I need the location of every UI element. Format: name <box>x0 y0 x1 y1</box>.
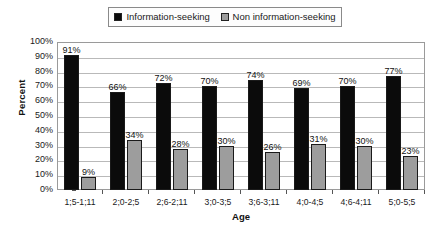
x-axis-title: Age <box>57 211 425 222</box>
x-axis-tick-mark <box>57 190 103 196</box>
bar-information-seeking: 74% <box>248 80 263 190</box>
bar-group: 91%9% <box>57 42 103 190</box>
x-axis-tick-mark <box>241 190 287 196</box>
bar-group: 74%26% <box>241 42 287 190</box>
bar-non-information-seeking: 26% <box>265 152 280 190</box>
bar-value-label: 34% <box>125 131 143 140</box>
bar-value-label: 77% <box>384 67 402 76</box>
x-axis-tick-label: 4;0-4;5 <box>287 197 333 207</box>
bar-non-information-seeking: 30% <box>357 146 372 190</box>
y-axis-tick-label: 70% <box>21 81 53 90</box>
bar-information-seeking: 69% <box>294 88 309 190</box>
bar-information-seeking: 70% <box>202 86 217 190</box>
bar-value-label: 91% <box>62 46 80 55</box>
y-axis-tick-label: 40% <box>21 126 53 135</box>
x-axis-tick-label: 2;0-2;5 <box>103 197 149 207</box>
bar-information-seeking: 70% <box>340 86 355 190</box>
x-axis-tick-label: 1;5-1;11 <box>57 197 103 207</box>
x-axis-tick-mark <box>195 190 241 196</box>
legend-entry-information-seeking: Information-seeking <box>114 12 209 22</box>
y-axis-tick-label: 80% <box>21 67 53 76</box>
x-axis-tick-label: 5;0-5;5 <box>379 197 425 207</box>
legend-label-information-seeking: Information-seeking <box>126 12 209 22</box>
y-axis-tick-label: 30% <box>21 141 53 150</box>
bar-non-information-seeking: 31% <box>311 144 326 190</box>
bar-value-label: 28% <box>171 140 189 149</box>
bar-group: 66%34% <box>103 42 149 190</box>
bar-information-seeking: 77% <box>386 76 401 190</box>
bar-group: 72%28% <box>149 42 195 190</box>
y-axis-tick-label: 0% <box>21 185 53 194</box>
bar-information-seeking: 72% <box>156 83 171 190</box>
y-axis-tick-label: 10% <box>21 170 53 179</box>
y-axis-tick-label: 100% <box>21 37 53 46</box>
x-axis-tick-mark <box>287 190 333 196</box>
x-axis-tick-label: 2;6-2;11 <box>149 197 195 207</box>
legend-swatch-non-information-seeking <box>221 13 229 21</box>
x-axis-tick-label: 3;6-3;11 <box>241 197 287 207</box>
legend-entry-non-information-seeking: Non information-seeking <box>221 12 336 22</box>
bar-group: 70%30% <box>195 42 241 190</box>
bar-non-information-seeking: 30% <box>219 146 234 190</box>
y-axis-tick-label: 60% <box>21 96 53 105</box>
bar-non-information-seeking: 28% <box>173 149 188 190</box>
x-axis-tick-mark <box>149 190 195 196</box>
bar-groups: 91%9%66%34%72%28%70%30%74%26%69%31%70%30… <box>57 42 425 190</box>
y-axis-tick-label: 50% <box>21 111 53 120</box>
x-axis-tick-mark <box>103 190 149 196</box>
bar-chart: Information-seeking Non information-seek… <box>0 0 433 241</box>
bar-non-information-seeking: 9% <box>81 177 96 190</box>
bar-value-label: 66% <box>108 83 126 92</box>
legend-swatch-information-seeking <box>114 13 122 21</box>
bar-value-label: 72% <box>154 74 172 83</box>
x-axis-tick-mark <box>333 190 379 196</box>
x-axis-tick-label: 4;6-4;11 <box>333 197 379 207</box>
bar-value-label: 9% <box>82 168 95 177</box>
y-axis-tick-label: 20% <box>21 155 53 164</box>
x-axis-ticks <box>57 190 425 196</box>
bar-value-label: 31% <box>309 135 327 144</box>
bar-group: 69%31% <box>287 42 333 190</box>
x-axis-tick-mark <box>379 190 425 196</box>
bar-non-information-seeking: 34% <box>127 140 142 190</box>
bar-value-label: 70% <box>338 77 356 86</box>
x-axis-tick-labels: 1;5-1;112;0-2;52;6-2;113;0-3;53;6-3;114;… <box>57 197 425 207</box>
bar-value-label: 30% <box>355 137 373 146</box>
x-axis-tick-label: 3;0-3;5 <box>195 197 241 207</box>
bar-value-label: 26% <box>263 143 281 152</box>
y-axis-tick-labels: 100%90%80%70%60%50%40%30%20%10%0% <box>19 42 53 190</box>
bar-value-label: 30% <box>217 137 235 146</box>
bar-information-seeking: 66% <box>110 92 125 190</box>
bar-value-label: 23% <box>401 147 419 156</box>
bar-value-label: 74% <box>246 71 264 80</box>
bar-group: 70%30% <box>333 42 379 190</box>
chart-legend: Information-seeking Non information-seek… <box>108 7 342 27</box>
y-axis-tick-label: 90% <box>21 52 53 61</box>
bar-information-seeking: 91% <box>64 55 79 190</box>
bar-group: 77%23% <box>379 42 425 190</box>
bar-non-information-seeking: 23% <box>403 156 418 190</box>
bar-value-label: 69% <box>292 79 310 88</box>
bar-value-label: 70% <box>200 77 218 86</box>
legend-label-non-information-seeking: Non information-seeking <box>233 12 336 22</box>
